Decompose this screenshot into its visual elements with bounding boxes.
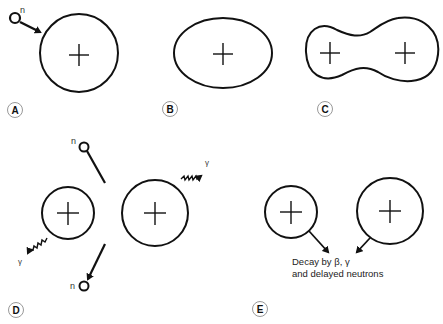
neutron-icon (10, 13, 20, 23)
panel-label: C (321, 104, 328, 115)
decay-caption-line1: Decay by β, γ (292, 256, 350, 267)
neutron-track (87, 151, 105, 183)
decay-arrow (357, 238, 370, 252)
plus-icon (395, 42, 415, 64)
fission-diagram: n A B C n (0, 0, 443, 324)
panel-e: Decay by β, γ and delayed neutrons E (253, 178, 424, 317)
panel-label: A (11, 105, 18, 116)
panel-label: D (12, 305, 19, 316)
panel-label: E (257, 304, 264, 315)
dumbbell-nucleus (306, 17, 438, 81)
gamma-label: γ (18, 257, 22, 266)
panel-label: B (166, 104, 173, 115)
plus-icon (213, 43, 233, 65)
neutron-icon (80, 282, 89, 291)
plus-icon (57, 202, 79, 225)
plus-icon (280, 201, 302, 224)
gamma-ray-icon (28, 238, 47, 253)
plus-icon (144, 202, 166, 225)
plus-icon (379, 200, 401, 223)
neutron-icon (80, 143, 89, 152)
panel-c: C (306, 17, 438, 116)
panel-d: n n γ γ D (9, 136, 210, 318)
decay-caption-line2: and delayed neutrons (292, 268, 384, 279)
plus-icon (320, 42, 340, 64)
neutron-arrow (20, 22, 40, 32)
plus-icon (69, 44, 89, 66)
decay-arrow (309, 231, 328, 252)
panel-b: B (163, 18, 273, 117)
neutron-label: n (71, 136, 76, 146)
gamma-ray-icon (181, 176, 201, 180)
neutron-track (88, 244, 105, 279)
panel-a: n A (8, 5, 119, 118)
neutron-label: n (20, 5, 25, 15)
neutron-label: n (70, 281, 75, 291)
gamma-label: γ (205, 158, 209, 167)
